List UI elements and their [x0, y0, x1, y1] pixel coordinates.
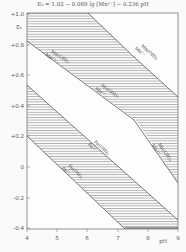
x-tick-label: 6 [85, 235, 89, 241]
x-axis [27, 229, 178, 232]
y-tick-label: -0.2 [13, 195, 24, 201]
x-tick-label: 8 [146, 235, 150, 241]
y-tick-label: +0.4 [11, 103, 25, 109]
y-tick-label: +1.0 [11, 11, 25, 17]
y-axis-label: Eₕ [16, 24, 22, 30]
y-tick-label: 0 [21, 164, 25, 170]
y-tick-label: +0.2 [11, 133, 24, 139]
x-tick-label: 4 [25, 235, 29, 241]
y-tick-label: +0.6 [11, 72, 25, 78]
pourbaix-chart: +1.0 +0.8 +0.6 +0.4 +0.2 0 -0.2 -0.4 Eₕ … [0, 0, 186, 252]
y-tick-label: +0.8 [11, 42, 25, 48]
x-tick-label: 5 [55, 235, 59, 241]
y-tick-label: -0.4 [13, 225, 24, 231]
x-axis-label: pH [159, 238, 167, 245]
x-tick-label: 7 [116, 235, 120, 241]
x-tick-label: 9 [176, 235, 180, 241]
